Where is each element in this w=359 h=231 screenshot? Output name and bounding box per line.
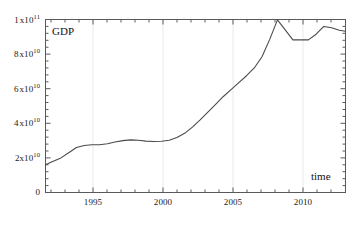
y-tick-label-8e10: 8 x1010: [0, 50, 40, 59]
x-axis-label-time: time: [311, 171, 331, 182]
gdp-data-line: [46, 20, 346, 165]
y-tick-label-4e10: 4 x1010: [0, 119, 40, 128]
gdp-time-chart: 1 x1011 8 x1010 6 x1010 4 x1010 2x1010 0…: [0, 0, 359, 231]
x-tick-label-2000: 2000: [154, 198, 172, 207]
y-tick-label-6e10: 6 x1010: [0, 85, 40, 94]
x-axis-ticks: [51, 188, 331, 193]
y-tick-label-2e10: 2x1010: [0, 154, 40, 163]
y-tick-label-1e11: 1 x1011: [0, 16, 40, 25]
vertical-gridlines: [93, 19, 303, 192]
x-tick-label-1995: 1995: [84, 198, 102, 207]
y-axis-ticks-right: [341, 26, 346, 192]
x-tick-label-2010: 2010: [294, 198, 312, 207]
series-label-gdp: GDP: [52, 26, 74, 37]
x-axis-ticks-top: [51, 20, 331, 25]
axis-frame: [45, 19, 346, 193]
y-tick-label-0: 0: [0, 188, 40, 197]
x-tick-label-2005: 2005: [224, 198, 242, 207]
y-axis-ticks: [46, 20, 51, 193]
